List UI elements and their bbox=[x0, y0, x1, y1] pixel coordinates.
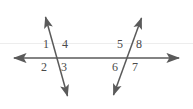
angle-label-3: 3 bbox=[61, 61, 67, 73]
left-transversal-line bbox=[46, 17, 68, 96]
figure-canvas bbox=[0, 0, 193, 109]
right-transversal-line bbox=[114, 18, 142, 95]
angle-label-1: 1 bbox=[43, 38, 49, 50]
angle-label-5: 5 bbox=[117, 38, 123, 50]
angle-label-6: 6 bbox=[112, 61, 118, 73]
angle-label-8: 8 bbox=[136, 38, 142, 50]
geometry-figure: 1 4 2 3 5 8 6 7 bbox=[0, 0, 193, 109]
angle-label-7: 7 bbox=[132, 61, 138, 73]
angle-label-2: 2 bbox=[41, 61, 47, 73]
angle-label-4: 4 bbox=[62, 38, 68, 50]
